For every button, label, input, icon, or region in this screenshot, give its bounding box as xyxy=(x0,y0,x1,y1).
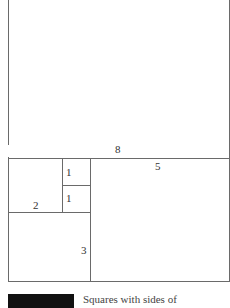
divider-1 xyxy=(62,185,90,186)
square-label-1a: 1 xyxy=(66,166,72,178)
square-label-5: 5 xyxy=(155,160,161,172)
figure-caption: Squares with sides of xyxy=(83,293,177,305)
divider-3 xyxy=(8,212,91,213)
square-label-3: 3 xyxy=(81,244,87,256)
frame-left-lower xyxy=(8,157,9,281)
square-label-1b: 1 xyxy=(66,192,72,204)
square-label-2: 2 xyxy=(33,199,39,211)
square-label-8: 8 xyxy=(115,143,121,155)
divider-8 xyxy=(8,158,230,159)
figure-label xyxy=(8,294,74,308)
divider-5 xyxy=(90,158,91,281)
frame-left xyxy=(8,0,9,145)
frame-bottom xyxy=(8,281,230,282)
frame-right xyxy=(229,0,230,281)
